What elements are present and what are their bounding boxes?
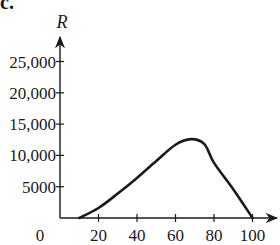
- y-tick-label: 20,000: [9, 84, 56, 103]
- y-tick-label: 25,000: [9, 53, 56, 72]
- y-tick-label: 10,000: [9, 146, 56, 165]
- tick-labels: 204060801000500010,00015,00020,00025,000…: [9, 12, 265, 245]
- ticks: [56, 62, 253, 223]
- y-tick-label: 15,000: [9, 115, 56, 134]
- x-tick-label: 40: [129, 226, 146, 245]
- x-tick-label: 60: [167, 226, 184, 245]
- revenue-curve: [79, 139, 252, 218]
- axes: [60, 37, 277, 218]
- y-tick-label: 5000: [22, 178, 56, 197]
- y-axis-title: R: [56, 12, 68, 32]
- revenue-chart: 204060801000500010,00015,00020,00025,000…: [0, 0, 280, 245]
- x-tick-label: 80: [206, 226, 223, 245]
- x-tick-label: 100: [240, 226, 266, 245]
- origin-label: 0: [36, 226, 45, 245]
- x-tick-label: 20: [90, 226, 107, 245]
